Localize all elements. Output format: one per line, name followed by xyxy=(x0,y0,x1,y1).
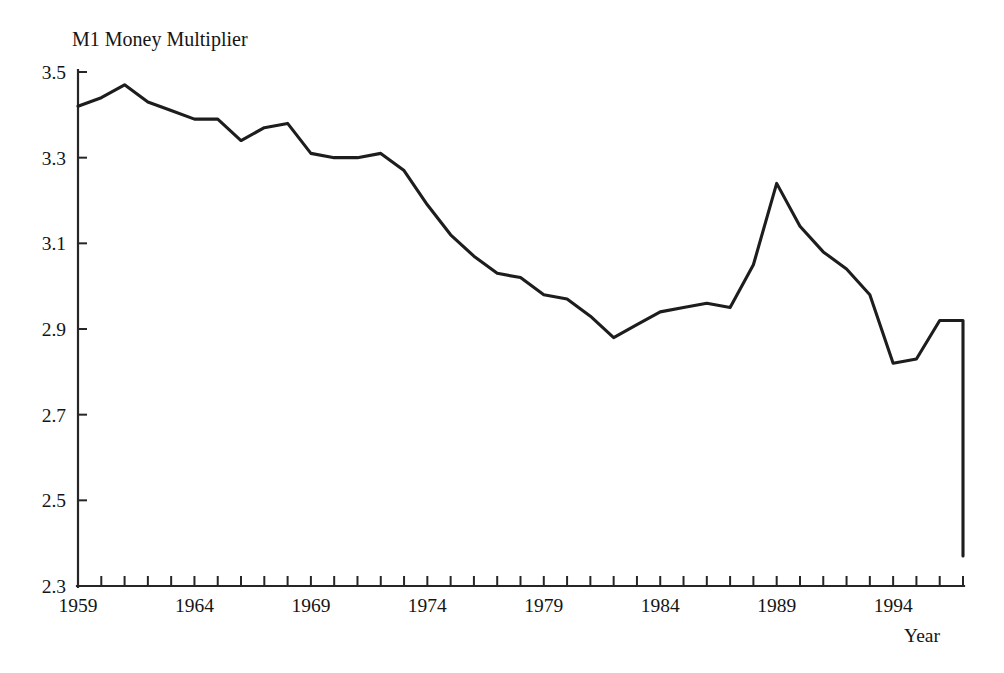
y-tick-label: 2.3 xyxy=(42,576,66,597)
x-tick-label: 1994 xyxy=(874,595,913,616)
x-tick-label: 1979 xyxy=(524,595,563,616)
x-tick-label: 1969 xyxy=(291,595,330,616)
chart-title: M1 Money Multiplier xyxy=(72,28,248,51)
y-tick-label: 2.5 xyxy=(42,490,66,511)
x-tick-label: 1984 xyxy=(641,595,680,616)
x-tick-label: 1959 xyxy=(59,595,98,616)
y-tick-label: 3.5 xyxy=(42,62,66,83)
x-tick-label: 1964 xyxy=(175,595,214,616)
x-tick-label: 1989 xyxy=(757,595,796,616)
chart-figure: M1 Money Multiplier 3.53.33.12.92.72.52.… xyxy=(0,0,1004,673)
y-tick-label: 2.9 xyxy=(42,319,66,340)
y-tick-label: 3.1 xyxy=(42,233,66,254)
x-tick-label: 1974 xyxy=(408,595,447,616)
y-tick-label: 2.7 xyxy=(42,405,67,426)
x-axis-title: Year xyxy=(904,625,940,646)
line-chart: M1 Money Multiplier 3.53.33.12.92.72.52.… xyxy=(0,0,1004,673)
y-tick-label: 3.3 xyxy=(42,148,66,169)
chart-background xyxy=(0,0,1004,673)
